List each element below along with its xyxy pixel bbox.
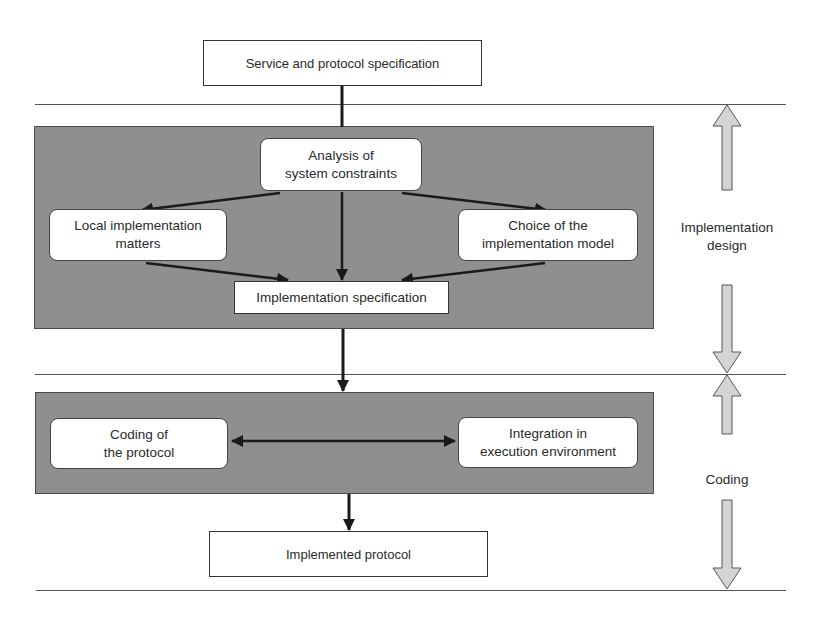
local-line1: Local implementation (74, 217, 202, 235)
choice-implementation-model-box: Choice of the implementation model (458, 209, 638, 261)
implemented-protocol-label: Implemented protocol (286, 546, 411, 563)
analysis-system-constraints-box: Analysis of system constraints (260, 138, 422, 191)
phase-design-line2: design (667, 237, 787, 255)
implementation-specification-box: Implementation specification (234, 281, 449, 314)
coding-of-protocol-box: Coding of the protocol (50, 418, 228, 469)
service-protocol-spec-label: Service and protocol specification (246, 55, 440, 72)
phase-label-implementation-design: Implementation design (667, 219, 787, 255)
implemented-protocol-box: Implemented protocol (209, 531, 488, 577)
local-line2: matters (115, 235, 160, 253)
choice-line2: implementation model (482, 235, 614, 253)
choice-line1: Choice of the (508, 217, 588, 235)
analysis-line1: Analysis of (308, 147, 373, 165)
local-implementation-matters-box: Local implementation matters (49, 209, 227, 261)
integration-execution-env-box: Integration in execution environment (458, 417, 638, 468)
separator-middle (35, 374, 786, 375)
separator-bottom (36, 590, 786, 591)
service-protocol-spec-box: Service and protocol specification (203, 40, 482, 86)
analysis-line2: system constraints (285, 165, 397, 183)
phase-coding-label: Coding (706, 472, 749, 487)
integration-line1: Integration in (509, 425, 587, 443)
implementation-specification-label: Implementation specification (256, 289, 426, 306)
coding-line2: the protocol (104, 444, 175, 462)
separator-top (35, 104, 786, 105)
coding-line1: Coding of (110, 426, 168, 444)
integration-line2: execution environment (480, 443, 616, 461)
phase-label-coding: Coding (687, 471, 767, 489)
phase-design-line1: Implementation (667, 219, 787, 237)
